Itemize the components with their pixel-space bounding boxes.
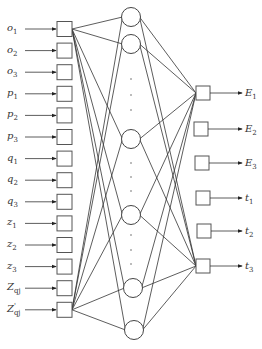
input-node: Zqj bbox=[6, 281, 72, 296]
output-label: E3 bbox=[244, 157, 257, 171]
input-label: p2 bbox=[7, 108, 18, 122]
ellipsis-dot bbox=[130, 176, 132, 178]
input-label: p3 bbox=[7, 130, 18, 144]
output-node: E2 bbox=[194, 122, 257, 137]
output-label: E1 bbox=[244, 87, 257, 101]
input-node: p1 bbox=[7, 86, 72, 101]
input-box bbox=[57, 302, 72, 317]
input-node: o3 bbox=[7, 65, 72, 80]
input-label: q2 bbox=[7, 173, 18, 187]
input-box bbox=[57, 22, 72, 37]
input-label: p1 bbox=[7, 87, 18, 101]
input-node: z2 bbox=[6, 238, 72, 253]
input-node: q2 bbox=[7, 173, 72, 188]
input-box bbox=[57, 259, 72, 274]
input-label: q1 bbox=[7, 152, 18, 166]
output-label: t3 bbox=[245, 260, 254, 274]
neural-network-diagram: o1o2o3p1p2p3q1q2q3z1z2z3ZqjZ'qj E1E2E3t1… bbox=[0, 0, 262, 349]
ellipsis-dot bbox=[130, 190, 132, 192]
output-box bbox=[197, 224, 211, 238]
output-box bbox=[195, 156, 209, 170]
input-box bbox=[57, 43, 72, 58]
input-layer: o1o2o3p1p2p3q1q2q3z1z2z3ZqjZ'qj bbox=[6, 22, 72, 318]
input-label: q3 bbox=[7, 195, 18, 209]
input-node: z3 bbox=[6, 259, 72, 274]
input-node: q1 bbox=[7, 151, 72, 166]
input-label: z2 bbox=[6, 238, 17, 252]
hidden-node bbox=[122, 8, 141, 27]
output-node: E3 bbox=[195, 156, 257, 171]
output-label: E2 bbox=[244, 123, 257, 137]
input-node: p2 bbox=[7, 108, 72, 123]
output-box bbox=[196, 191, 210, 205]
ellipsis-dot bbox=[130, 94, 132, 96]
output-box bbox=[196, 86, 210, 100]
input-box bbox=[57, 130, 72, 145]
input-node: p3 bbox=[7, 130, 72, 145]
input-box bbox=[57, 216, 72, 231]
input-box bbox=[57, 65, 72, 80]
output-label: t2 bbox=[245, 225, 254, 239]
input-label: z1 bbox=[6, 216, 17, 230]
ellipsis-dot bbox=[130, 109, 132, 111]
output-node: t2 bbox=[197, 224, 254, 239]
input-box bbox=[57, 108, 72, 123]
output-box bbox=[196, 259, 210, 273]
input-box bbox=[57, 281, 72, 296]
input-label: o2 bbox=[7, 44, 18, 58]
input-node: z1 bbox=[6, 216, 72, 231]
input-box bbox=[57, 86, 72, 101]
output-node: t1 bbox=[196, 191, 254, 206]
ellipsis-dot bbox=[130, 234, 132, 236]
hidden-node bbox=[122, 206, 141, 225]
input-label: Zqj bbox=[6, 281, 21, 295]
hidden-node bbox=[122, 35, 141, 54]
ellipsis-dot bbox=[130, 162, 132, 164]
output-label: t1 bbox=[245, 192, 254, 206]
hidden-layer bbox=[122, 8, 144, 340]
output-box bbox=[194, 122, 208, 136]
input-label: z3 bbox=[6, 260, 17, 274]
input-box bbox=[57, 238, 72, 253]
input-box bbox=[57, 173, 72, 188]
hidden-node bbox=[122, 130, 141, 149]
output-node: E1 bbox=[196, 86, 257, 101]
ellipsis-dot bbox=[130, 263, 132, 265]
input-node: q3 bbox=[7, 194, 72, 209]
input-box bbox=[57, 194, 72, 209]
input-box bbox=[57, 151, 72, 166]
input-label: Z'qj bbox=[6, 302, 21, 317]
input-label: o3 bbox=[7, 65, 18, 79]
input-node: o1 bbox=[7, 22, 72, 37]
input-node: o2 bbox=[7, 43, 72, 58]
input-node: Z'qj bbox=[6, 302, 72, 318]
hidden-node bbox=[125, 321, 144, 340]
output-layer: E1E2E3t1t2t3 bbox=[194, 86, 257, 274]
hidden-node bbox=[124, 279, 143, 298]
output-node: t3 bbox=[196, 259, 254, 274]
ellipsis-dot bbox=[130, 78, 132, 80]
ellipsis-dot bbox=[130, 249, 132, 251]
input-label: o1 bbox=[7, 22, 18, 36]
